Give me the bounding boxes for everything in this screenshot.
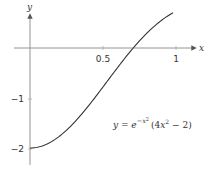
- equation-label: y = e−x2(4x2 − 2): [112, 116, 192, 130]
- y-tick-label-neg1: −1: [11, 94, 24, 104]
- x-tick-label-1: 1: [173, 54, 179, 64]
- y-tick-label-neg2: −2: [11, 144, 24, 154]
- chart: 0.5 1 −1 −2 y x y = e−x2(4x2 − 2): [0, 0, 208, 169]
- y-axis-label: y: [26, 2, 33, 12]
- x-axis-label: x: [199, 43, 204, 53]
- x-tick-label-0.5: 0.5: [96, 54, 110, 64]
